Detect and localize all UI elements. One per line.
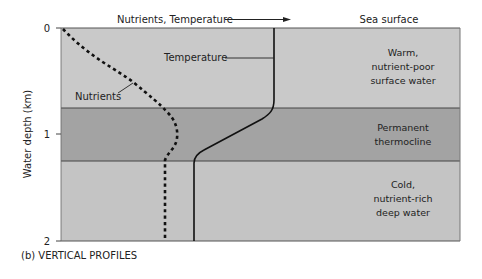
y-tick-0: 0: [44, 23, 50, 34]
arrow-right-icon: [283, 17, 291, 22]
nutrients-label: Nutrients: [75, 91, 121, 102]
figure-caption: (b) VERTICAL PROFILES: [21, 250, 137, 261]
thermocline-layer: [61, 108, 460, 161]
y-axis: 0 1 2 Water depth (km): [22, 23, 61, 247]
y-axis-label: Water depth (km): [22, 90, 33, 178]
svg-text:nutrient-rich: nutrient-rich: [373, 193, 432, 204]
svg-text:deep water: deep water: [376, 207, 430, 218]
svg-text:Permanent: Permanent: [377, 122, 429, 133]
svg-text:surface water: surface water: [370, 75, 435, 86]
vertical-profiles-diagram: 0 1 2 Water depth (km) Nutrients, Temper…: [0, 0, 482, 279]
svg-text:thermocline: thermocline: [375, 136, 432, 147]
svg-text:Cold,: Cold,: [391, 179, 415, 190]
y-tick-1: 1: [44, 129, 50, 140]
svg-text:nutrient-poor: nutrient-poor: [372, 61, 435, 72]
svg-text:Warm,: Warm,: [388, 47, 419, 58]
y-tick-2: 2: [44, 236, 50, 247]
sea-surface-label: Sea surface: [360, 14, 419, 25]
temperature-label: Temperature: [163, 52, 227, 63]
top-axis-label: Nutrients, Temperature: [117, 14, 233, 25]
